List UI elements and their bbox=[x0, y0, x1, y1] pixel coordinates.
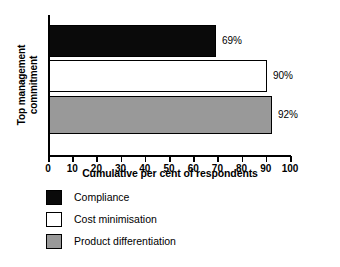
x-tick-50 bbox=[169, 156, 171, 162]
y-axis-title: Top management commitment bbox=[8, 14, 48, 156]
x-tick-90 bbox=[266, 156, 268, 162]
gray-swatch-icon bbox=[46, 234, 62, 249]
bar-value-product-differentiation: 92% bbox=[278, 109, 298, 120]
x-tick-80 bbox=[242, 156, 244, 162]
y-axis-title-line-2: commitment bbox=[28, 45, 40, 126]
x-tick-0 bbox=[48, 156, 50, 162]
y-axis-title-line-1: Top management bbox=[16, 45, 28, 126]
bar-cost-minimisation bbox=[49, 60, 267, 92]
legend-item-compliance: Compliance bbox=[46, 188, 286, 210]
black-swatch-icon bbox=[46, 190, 62, 205]
bar-value-cost-minimisation: 90% bbox=[273, 70, 293, 81]
bar-product-differentiation bbox=[49, 96, 272, 134]
chart-legend: Compliance Cost minimisation Product dif… bbox=[46, 188, 286, 254]
legend-label-compliance: Compliance bbox=[74, 191, 129, 203]
legend-label-product-differentiation: Product differentiation bbox=[74, 235, 176, 247]
x-tick-40 bbox=[145, 156, 147, 162]
x-tick-10 bbox=[72, 156, 74, 162]
x-axis-title: Cumulative per cent of respondents bbox=[48, 167, 292, 179]
x-tick-70 bbox=[217, 156, 219, 162]
legend-item-product-differentiation: Product differentiation bbox=[46, 232, 286, 254]
x-tick-20 bbox=[96, 156, 98, 162]
x-tick-60 bbox=[193, 156, 195, 162]
bar-value-compliance: 69% bbox=[222, 35, 242, 46]
bar-compliance bbox=[49, 25, 216, 57]
legend-item-cost-minimisation: Cost minimisation bbox=[46, 210, 286, 232]
x-tick-100 bbox=[290, 156, 292, 162]
x-tick-30 bbox=[121, 156, 123, 162]
bar-chart-figure: Top management commitment 69% 90% 92% 0 … bbox=[0, 0, 340, 267]
white-swatch-icon bbox=[46, 212, 62, 227]
legend-label-cost-minimisation: Cost minimisation bbox=[74, 213, 157, 225]
plot-area: 69% 90% 92% 0 10 20 30 40 50 60 70 80 90… bbox=[48, 15, 290, 155]
